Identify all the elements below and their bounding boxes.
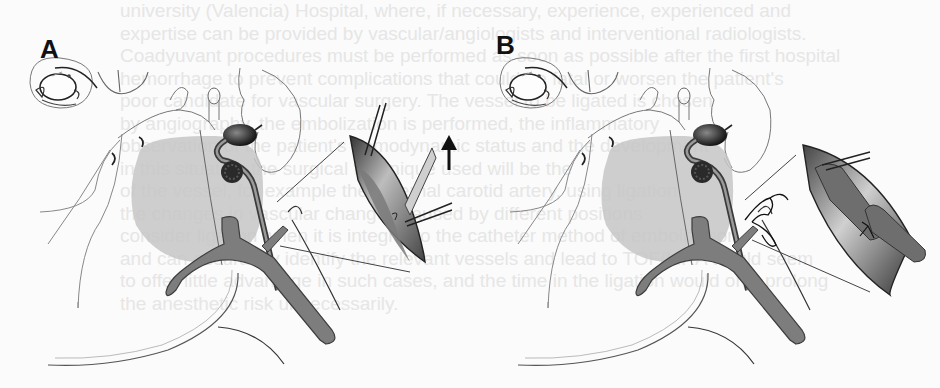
- suture-knot-icon: [745, 194, 788, 246]
- panel-label-a: A: [40, 34, 59, 65]
- anatomical-figure: [0, 0, 940, 388]
- panel-b-drawing: [500, 58, 926, 366]
- inset-b: [803, 145, 926, 295]
- up-arrow-icon: [441, 135, 457, 170]
- panel-label-b: B: [496, 30, 515, 61]
- inset-a: [350, 103, 457, 262]
- panel-a-drawing: [30, 58, 457, 366]
